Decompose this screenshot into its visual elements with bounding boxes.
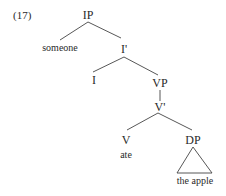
leaf-someone: someone bbox=[42, 43, 78, 53]
node-i: I bbox=[92, 74, 96, 86]
node-dp: DP bbox=[185, 134, 200, 146]
leaf-ate: ate bbox=[120, 150, 132, 160]
node-i-bar: I' bbox=[121, 43, 127, 55]
leaf-the-apple: the apple bbox=[177, 176, 213, 186]
edge-vbar-dp bbox=[158, 113, 192, 130]
node-vp: VP bbox=[152, 77, 167, 89]
dp-triangle bbox=[177, 147, 212, 173]
edge-ibar-vp bbox=[124, 57, 158, 75]
node-v: V bbox=[122, 134, 131, 146]
edge-ip-ibar bbox=[88, 22, 121, 38]
tree-edges bbox=[0, 0, 226, 196]
edge-ip-someone bbox=[60, 22, 88, 40]
edge-ibar-i bbox=[93, 57, 124, 72]
node-ip: IP bbox=[83, 9, 94, 21]
node-v-bar: V' bbox=[155, 101, 166, 113]
edge-vbar-v bbox=[127, 113, 158, 130]
